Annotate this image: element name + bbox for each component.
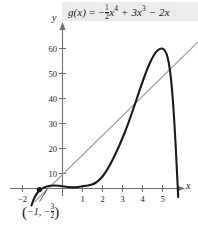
y-tick-label-50: 50 [40, 69, 57, 79]
x-tick-label-3: 3 [115, 194, 130, 204]
equation-label: g(x) = −12x4 + 3x3 − 2x [68, 4, 170, 21]
equation-lhs: g(x) [68, 6, 86, 18]
equation-term1-sign: − [98, 6, 104, 18]
tangent-point-marker [37, 187, 42, 192]
x-axis-label: x [186, 180, 190, 191]
x-tick-label-4: 4 [135, 194, 150, 204]
y-tick-label-20: 20 [40, 144, 57, 154]
x-axis [10, 185, 185, 191]
function-graph-figure: g(x) = −12x4 + 3x3 − 2x y x 60 50 40 30 … [0, 0, 198, 229]
equation-term3: − 2x [149, 6, 170, 18]
x-tick-label-2: 2 [95, 194, 110, 204]
point-label-y-sign: − [44, 206, 51, 217]
y-tick-label-60: 60 [40, 44, 57, 54]
x-tick-label-1: 1 [75, 194, 90, 204]
equation-term2: + 3x [121, 6, 142, 18]
y-tick-label-40: 40 [40, 94, 57, 104]
point-label-close-paren: ) [54, 204, 59, 220]
x-tick-label-5: 5 [155, 194, 170, 204]
tangent-point-label: (−1, −32) [22, 203, 59, 221]
y-tick-label-30: 30 [40, 119, 57, 129]
y-tick-label-10: 10 [40, 169, 57, 179]
y-axis-label: y [52, 12, 56, 23]
point-label-x: −1, [27, 206, 41, 217]
